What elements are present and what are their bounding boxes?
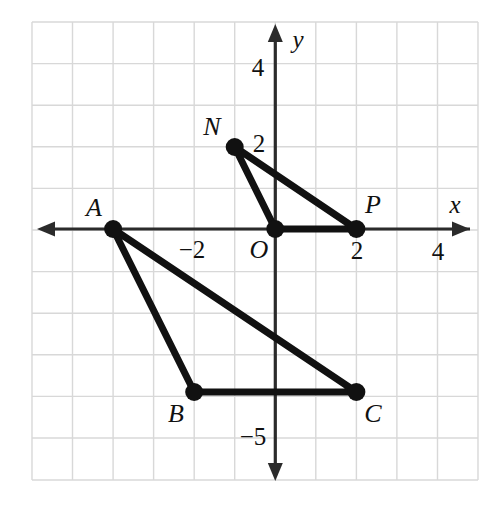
y-axis-label: y bbox=[292, 26, 303, 54]
point-dot-O bbox=[266, 220, 284, 238]
x-axis-arrow-left bbox=[37, 222, 55, 237]
point-label-B: B bbox=[168, 399, 184, 429]
point-label-N: N bbox=[203, 112, 220, 142]
x-axis-arrow-right bbox=[452, 222, 470, 237]
point-dot-P bbox=[347, 220, 365, 238]
y-tick-label-2: 2 bbox=[253, 130, 266, 158]
point-label-P: P bbox=[365, 190, 381, 220]
point-dot-N bbox=[226, 138, 244, 156]
x-tick-label-2: 2 bbox=[351, 237, 364, 265]
y-tick-label-4: 4 bbox=[252, 54, 265, 82]
x-tick-label-neg2: −2 bbox=[179, 236, 206, 264]
y-axis-arrow-up bbox=[268, 24, 283, 42]
point-dot-A bbox=[104, 220, 122, 238]
x-axis-label: x bbox=[449, 191, 460, 219]
y-axis bbox=[268, 24, 283, 481]
point-dot-B bbox=[185, 383, 203, 401]
point-dot-C bbox=[347, 383, 365, 401]
point-label-C: C bbox=[364, 399, 381, 429]
origin-label: O bbox=[250, 235, 269, 265]
point-label-A: A bbox=[86, 193, 102, 223]
y-axis-arrow-down bbox=[268, 463, 283, 481]
coordinate-plane-figure: y x 4 2 −5 −2 2 4 O N P A B C bbox=[0, 0, 494, 507]
y-tick-label-neg5: −5 bbox=[240, 423, 267, 451]
x-tick-label-4: 4 bbox=[432, 238, 445, 266]
